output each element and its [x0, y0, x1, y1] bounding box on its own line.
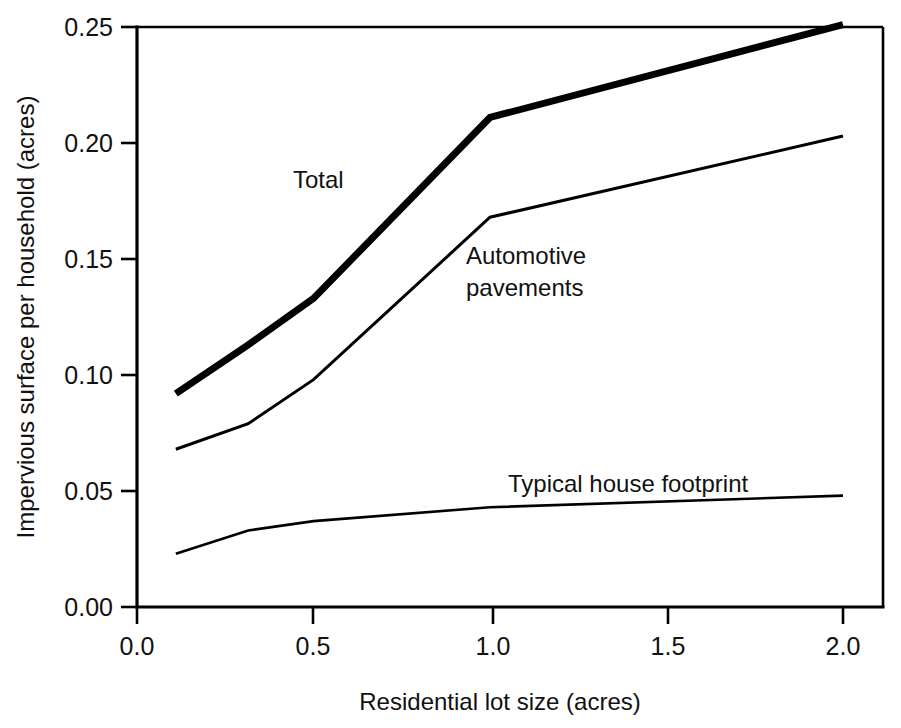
- series-label-typical-house-footprint: Typical house footprint: [508, 470, 748, 497]
- y-tick-label-0.25: 0.25: [64, 13, 113, 41]
- y-tick-label-0.15: 0.15: [64, 245, 113, 273]
- x-tick-label-0.0: 0.0: [120, 632, 155, 660]
- chart-figure: 0.25 0.20 0.15 0.10 0.05 0.00 0.0 0.5 1.…: [0, 0, 901, 728]
- line-chart-svg: 0.25 0.20 0.15 0.10 0.05 0.00 0.0 0.5 1.…: [0, 0, 901, 728]
- series-annotations: Total Automotive pavements Typical house…: [293, 166, 748, 497]
- y-axis-ticks: [121, 27, 137, 607]
- series-line-total: [176, 25, 843, 394]
- y-tick-label-0.05: 0.05: [64, 477, 113, 505]
- series-label-automotive-line1: Automotive: [466, 242, 586, 269]
- x-tick-label-1.5: 1.5: [651, 632, 686, 660]
- x-axis-tick-labels: 0.0 0.5 1.0 1.5 2.0: [120, 632, 861, 660]
- series-label-total: Total: [293, 166, 344, 193]
- y-tick-label-0.20: 0.20: [64, 129, 113, 157]
- x-tick-label-1.0: 1.0: [476, 632, 511, 660]
- series-label-automotive-line2: pavements: [466, 274, 583, 301]
- y-tick-label-0.10: 0.10: [64, 361, 113, 389]
- x-axis-ticks: [137, 607, 843, 624]
- y-axis-title: Impervious surface per household (acres): [12, 96, 39, 539]
- series-line-typical-house-footprint: [176, 496, 843, 554]
- y-tick-label-0.00: 0.00: [64, 593, 113, 621]
- x-axis-title: Residential lot size (acres): [359, 688, 640, 715]
- x-tick-label-2.0: 2.0: [826, 632, 861, 660]
- y-axis-tick-labels: 0.25 0.20 0.15 0.10 0.05 0.00: [64, 13, 113, 621]
- x-tick-label-0.5: 0.5: [296, 632, 331, 660]
